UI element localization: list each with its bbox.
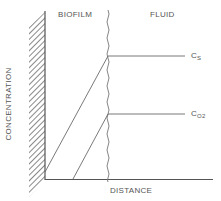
co2-label: CO2 [191, 109, 206, 119]
x-axis-label: DISTANCE [110, 186, 152, 195]
concentration-profile-diagram [0, 0, 221, 201]
co2-label-sub: O2 [197, 113, 206, 119]
substratum-wall-hatch [29, 12, 45, 197]
fluid-label: FLUID [150, 10, 175, 19]
biofilm-fluid-interface [107, 10, 109, 182]
cs-label: CS [191, 51, 201, 61]
y-axis-label: CONCENTRATION [4, 67, 13, 140]
oxygen-concentration-line [73, 114, 185, 179]
biofilm-label: BIOFILM [58, 10, 92, 19]
cs-label-sub: S [197, 55, 201, 61]
